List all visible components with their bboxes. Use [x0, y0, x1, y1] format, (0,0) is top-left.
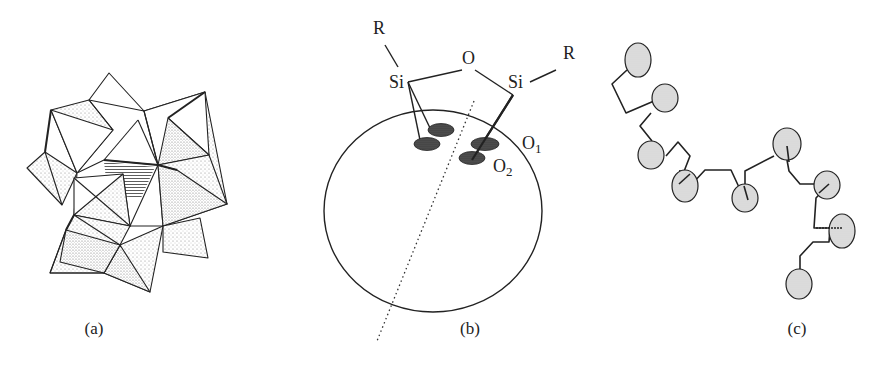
chain-sphere: [638, 141, 664, 169]
panel-b-diagram: R O R Si Si O1 O2: [324, 18, 575, 341]
panel-a-caption: (a): [85, 319, 104, 338]
label-si-left: Si: [389, 72, 404, 92]
panel-a-polyhedra: [27, 73, 227, 292]
label-o1: O1: [522, 133, 542, 156]
oxygen-left-lower: [414, 138, 440, 151]
label-o-bridge: O: [462, 48, 475, 68]
figure-canvas: (a): [0, 0, 873, 366]
panel-c-caption: (c): [788, 319, 807, 338]
panel-b-caption: (b): [460, 319, 480, 338]
panel-c-chain: [612, 43, 855, 299]
chain-sphere: [652, 84, 678, 112]
label-r-left: R: [373, 18, 385, 38]
label-o2: O2: [493, 156, 513, 179]
chain-sphere: [829, 214, 855, 248]
oxygen-left-upper: [428, 124, 454, 137]
chain-sphere: [625, 43, 651, 77]
chain-sphere: [786, 269, 812, 299]
label-r-right: R: [563, 43, 575, 63]
label-si-right: Si: [508, 72, 523, 92]
chain-sphere: [672, 170, 698, 202]
chain-sphere: [773, 128, 801, 160]
